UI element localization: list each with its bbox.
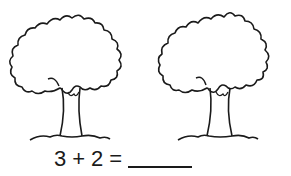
tree-illustration-left (0, 0, 145, 145)
operand-b: 2 (91, 147, 103, 171)
tree-illustration-right (145, 0, 291, 145)
tree-icon (0, 0, 145, 145)
plus-operator: + (72, 147, 85, 171)
tree-icon (145, 0, 291, 145)
operand-a: 3 (54, 147, 66, 171)
answer-blank[interactable] (128, 166, 192, 168)
equals-sign: = (109, 147, 122, 171)
addition-equation: 3 + 2 = (54, 147, 192, 171)
